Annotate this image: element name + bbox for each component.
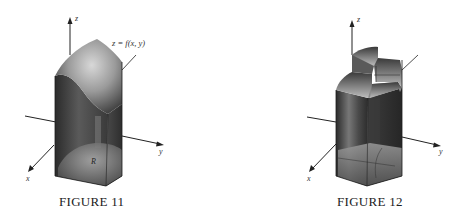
y-axis-negative xyxy=(307,117,336,122)
surface-leader-line xyxy=(122,55,136,70)
figure-11-caption: FIGURE 11 xyxy=(59,194,124,210)
figure-11-drawing xyxy=(0,0,230,216)
z-axis xyxy=(68,17,73,55)
x-axis-label: x xyxy=(307,174,311,183)
y-axis xyxy=(402,137,441,148)
z-axis xyxy=(350,20,355,55)
y-axis-label: y xyxy=(159,147,163,156)
z-axis-label: z xyxy=(75,14,78,23)
region-r-label: R xyxy=(91,157,96,166)
y-axis-back xyxy=(402,55,418,70)
y-axis-negative xyxy=(25,116,56,122)
x-axis xyxy=(309,144,336,172)
z-axis-label: z xyxy=(357,15,360,24)
x-axis xyxy=(28,145,54,172)
figure-12-drawing xyxy=(230,0,461,216)
figure-12: z y x FIGURE 12 xyxy=(230,0,461,216)
figure-11: z z = f(x, y) y x R FIGURE 11 xyxy=(0,0,230,216)
surface-equation-label: z = f(x, y) xyxy=(112,38,145,48)
x-axis-label: x xyxy=(26,174,30,183)
figure-12-caption: FIGURE 12 xyxy=(337,194,403,210)
y-axis xyxy=(122,136,164,147)
y-axis-label: y xyxy=(439,147,443,156)
